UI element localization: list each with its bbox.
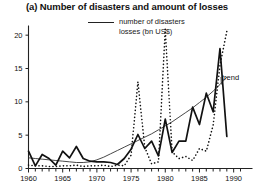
x-tick-label: 1990	[221, 174, 247, 183]
chart-figure: (a) Number of disasters and amount of lo…	[0, 0, 258, 192]
chart-tick-marks	[26, 35, 241, 172]
x-tick-label: 1985	[186, 174, 212, 183]
y-tick-label: 10	[7, 97, 23, 106]
x-tick-label: 1970	[84, 174, 110, 183]
x-tick-label: 1975	[118, 174, 144, 183]
series-disasters-line	[29, 49, 227, 166]
x-tick-label: 1965	[50, 174, 76, 183]
y-tick-label: 0	[7, 164, 23, 173]
y-tick-label: 5	[7, 131, 23, 140]
y-tick-label: 20	[7, 31, 23, 40]
chart-plot-area	[0, 0, 258, 192]
x-tick-label: 1980	[152, 174, 178, 183]
chart-axes	[29, 26, 253, 169]
y-tick-label: 15	[7, 64, 23, 73]
x-tick-label: 1960	[16, 174, 42, 183]
